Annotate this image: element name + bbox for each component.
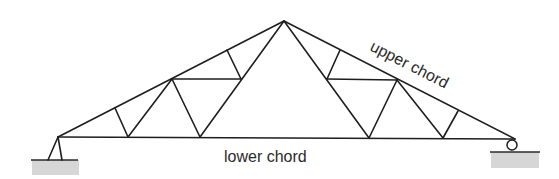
left-pinned-support [31, 137, 79, 175]
right-ground-hatch [491, 152, 539, 168]
left-ground-hatch [32, 160, 79, 175]
roller-icon [507, 140, 517, 150]
right-roller-support [490, 140, 540, 168]
truss-diagram: upper chord lower chord [0, 0, 559, 179]
lower-chord-label: lower chord [224, 148, 307, 165]
lower-chord [58, 137, 515, 139]
upper-chord-label: upper chord [368, 38, 452, 92]
upper-chord-right [284, 21, 515, 139]
left-web-members [115, 21, 284, 137]
